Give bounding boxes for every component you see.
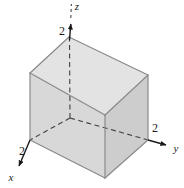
z-axis-dashed-top bbox=[71, 4, 72, 18]
z-axis-tick-label: 2 bbox=[59, 24, 65, 38]
y-axis-line bbox=[148, 140, 166, 145]
figure-canvas: 2 z 2 y 2 x bbox=[0, 0, 184, 188]
y-axis-tick-label: 2 bbox=[152, 121, 158, 135]
z-axis-name-label: z bbox=[74, 0, 80, 12]
x-axis-tick-label: 2 bbox=[19, 144, 25, 158]
cube-faces bbox=[30, 37, 148, 178]
cube-coordinate-svg: 2 z 2 y 2 x bbox=[0, 0, 184, 188]
x-axis-name-label: x bbox=[8, 171, 14, 183]
y-axis-name-label: y bbox=[173, 142, 179, 154]
